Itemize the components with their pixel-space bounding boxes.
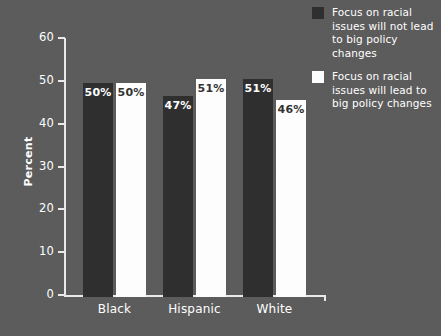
y-axis-tick-label-text: 20 xyxy=(22,203,54,215)
bar-value-label: 51% xyxy=(196,83,226,94)
x-axis-category-label: Black xyxy=(83,303,146,315)
y-axis-tick-label: 10 xyxy=(22,246,54,258)
y-axis-tick-label-text: 50 xyxy=(22,75,54,87)
bar-value-label: 46% xyxy=(276,104,306,115)
legend-swatch-icon xyxy=(312,71,324,83)
legend-swatch-icon xyxy=(312,7,324,19)
x-axis-category-label: Hispanic xyxy=(163,303,226,315)
y-axis-tick-label-text: 0 xyxy=(22,289,54,301)
legend-item: Focus on racial issues will not lead to … xyxy=(312,6,438,60)
legend-item-label: Focus on racial issues will lead to big … xyxy=(332,70,438,111)
bar-value-label: 51% xyxy=(243,83,273,94)
bar-value-label: 47% xyxy=(163,100,193,111)
y-axis-tick-label: 0 xyxy=(22,289,54,301)
bar: 50% xyxy=(116,83,146,297)
y-axis-tick xyxy=(58,208,65,210)
y-axis-title: Percent xyxy=(22,127,35,197)
legend: Focus on racial issues will not lead to … xyxy=(312,6,438,121)
legend-item: Focus on racial issues will lead to big … xyxy=(312,70,438,111)
bar: 51% xyxy=(196,79,226,297)
y-axis-tick xyxy=(58,294,65,296)
bar: 51% xyxy=(243,79,273,297)
y-axis-tick-label-text: 60 xyxy=(22,32,54,44)
y-axis-tick-label: 50 xyxy=(22,75,54,87)
y-axis-tick xyxy=(58,80,65,82)
bar: 46% xyxy=(276,100,306,297)
y-axis-tick-label: 20 xyxy=(22,203,54,215)
y-axis-tick-label: 60 xyxy=(22,32,54,44)
x-axis-category-label: White xyxy=(243,303,306,315)
legend-item-label: Focus on racial issues will not lead to … xyxy=(332,6,438,60)
y-axis-tick xyxy=(58,123,65,125)
y-axis-tick-label-text: 10 xyxy=(22,246,54,258)
bar-chart: 0102030405060 Percent 50%50%47%51%51%46%… xyxy=(0,0,441,336)
bar-value-label: 50% xyxy=(83,87,113,98)
y-axis-tick xyxy=(58,37,65,39)
y-axis-line xyxy=(64,38,66,297)
bar: 47% xyxy=(163,96,193,297)
y-axis-tick xyxy=(58,166,65,168)
bar: 50% xyxy=(83,83,113,297)
x-axis-end-tick xyxy=(324,295,326,301)
bar-value-label: 50% xyxy=(116,87,146,98)
y-axis-tick xyxy=(58,251,65,253)
